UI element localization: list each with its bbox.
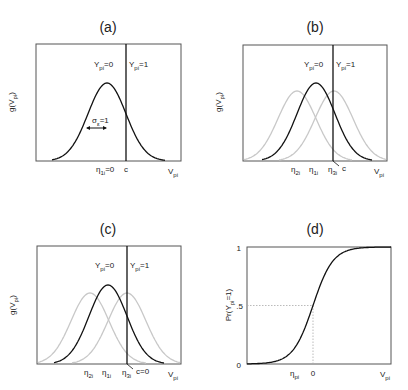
panel-c-eta2-label: η2i bbox=[84, 368, 93, 379]
panel-d-xlabel: Vpi bbox=[380, 370, 390, 381]
panel-d-ytick-1: 1 bbox=[237, 244, 242, 253]
panel-a: (a) Ypi=0 Ypi=1 σε=1 g(Vpi) η1i=0 c Vpi bbox=[7, 19, 181, 178]
panel-d-ytick-0: 0 bbox=[237, 361, 242, 370]
panel-b-c-pointer bbox=[333, 161, 339, 166]
panel-a-sigma-label: σε=1 bbox=[92, 116, 109, 127]
panel-b: (b) Ypi=0 Ypi=1 g(Vpi) η2i η1i η3i c Vpi bbox=[214, 19, 387, 178]
panel-c-y0-label: Ypi=0 bbox=[95, 261, 115, 272]
panel-d-ytick-half: .5 bbox=[236, 302, 243, 311]
panel-b-ylabel: g(Vpi) bbox=[214, 92, 225, 112]
panel-a-y1-label: Ypi=1 bbox=[129, 60, 149, 71]
panel-c-c-label: c=0 bbox=[136, 367, 150, 376]
panel-d-title: (d) bbox=[306, 221, 323, 237]
panel-c-eta3-label: η3i bbox=[122, 368, 131, 379]
panel-b-c-label: c bbox=[342, 164, 346, 173]
panel-c: (c) Ypi=0 Ypi=1 g(Vpi) η2i η1i η3i c=0 V… bbox=[8, 221, 181, 381]
panel-c-y1-label: Ypi=1 bbox=[130, 261, 150, 272]
panel-b-eta1-label: η1i bbox=[309, 165, 318, 176]
panel-c-eta2-curve bbox=[38, 293, 146, 363]
panel-a-c-label: c bbox=[124, 165, 128, 174]
panel-c-eta1-label: η1i bbox=[102, 368, 111, 379]
panel-a-title: (a) bbox=[99, 19, 116, 35]
panel-a-xlabel: Vpi bbox=[168, 167, 178, 178]
panel-a-eta-label: η1i=0 bbox=[96, 165, 115, 176]
panel-d-ylabel: Pr(Ypi=1) bbox=[224, 288, 235, 321]
panel-b-eta3-label: η3i bbox=[328, 165, 337, 176]
panel-c-c-pointer bbox=[127, 364, 133, 369]
panel-b-y0-label: Ypi=0 bbox=[304, 60, 324, 71]
panel-c-ylabel: g(Vpi) bbox=[8, 295, 19, 315]
panel-a-y0-label: Ypi=0 bbox=[94, 60, 114, 71]
figure: (a) Ypi=0 Ypi=1 σε=1 g(Vpi) η1i=0 c Vpi … bbox=[0, 0, 408, 390]
panel-a-ylabel: g(Vpi) bbox=[7, 92, 18, 112]
panel-c-title: (c) bbox=[100, 221, 116, 237]
panel-d-eta-label: ηpi bbox=[290, 369, 299, 380]
panel-b-y1-label: Ypi=1 bbox=[336, 60, 356, 71]
panel-d-zero-label: 0 bbox=[311, 369, 316, 378]
panel-b-xlabel: Vpi bbox=[374, 167, 384, 178]
panel-d: (d) 1 .5 0 Pr(Ypi=1) ηpi 0 Vpi bbox=[224, 221, 391, 381]
panel-c-xlabel: Vpi bbox=[168, 370, 178, 381]
panel-b-eta2-label: η2i bbox=[291, 165, 300, 176]
panel-b-title: (b) bbox=[306, 19, 323, 35]
